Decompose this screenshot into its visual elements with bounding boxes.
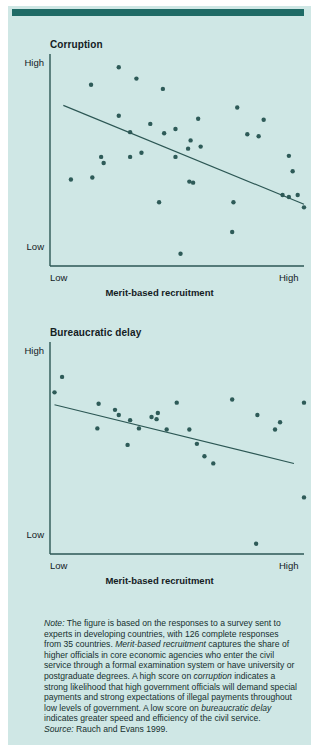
x-axis-high-label-corruption: High [279, 272, 299, 283]
data-point [117, 113, 121, 117]
data-point [290, 169, 294, 173]
data-point [139, 151, 143, 155]
data-point [95, 426, 99, 430]
x-axis-title-bureaucratic-delay: Merit-based recruitment [8, 575, 311, 586]
axes-bureaucratic-delay [50, 342, 304, 554]
data-point [273, 427, 277, 431]
source-text: Rauch and Evans 1999. [74, 724, 168, 734]
data-point [287, 154, 291, 158]
data-point [256, 134, 260, 138]
data-point [188, 138, 192, 142]
data-point [137, 426, 141, 430]
data-point [178, 252, 182, 256]
data-point [96, 401, 100, 405]
axes-corruption [50, 54, 304, 266]
data-point [125, 443, 129, 447]
data-point [175, 400, 179, 404]
note-paragraph: Note: The figure is based on the respons… [44, 618, 298, 724]
x-axis-low-label-corruption: Low [50, 272, 67, 283]
data-point [69, 177, 73, 181]
x-axis-title-corruption: Merit-based recruitment [8, 287, 311, 298]
note-body-4: indicates greater speed and efficiency o… [44, 713, 261, 723]
data-point [148, 122, 152, 126]
data-point [254, 542, 258, 546]
data-point [187, 179, 191, 183]
data-point [195, 442, 199, 446]
data-point [191, 180, 195, 184]
data-point [117, 413, 121, 417]
data-point [113, 408, 117, 412]
data-point [235, 105, 239, 109]
scatter-plot-corruption [48, 54, 308, 270]
data-point [296, 193, 300, 197]
data-point [302, 400, 306, 404]
data-point [231, 200, 235, 204]
data-point [198, 144, 202, 148]
data-point [154, 417, 158, 421]
data-point [164, 427, 168, 431]
source-label: Source: [44, 724, 74, 734]
note-term-corruption: corruption [194, 671, 232, 681]
figure-root: Corruption High Low Low High Merit-based… [8, 6, 311, 745]
data-point [52, 390, 56, 394]
note-term-bureaucratic-delay: bureaucratic delay [201, 703, 271, 713]
data-point [173, 127, 177, 131]
chart-panel-bureaucratic-delay: Bureaucratic delay High Low Low High Mer… [8, 324, 311, 594]
data-point [187, 427, 191, 431]
chart-panel-corruption: Corruption High Low Low High Merit-based… [8, 36, 311, 306]
data-point [162, 131, 166, 135]
y-axis-low-label-corruption: Low [8, 241, 44, 252]
data-point [161, 87, 165, 91]
chart-title-corruption: Corruption [50, 39, 103, 50]
x-axis-low-label-bureaucratic-delay: Low [50, 560, 67, 571]
top-rule [12, 9, 304, 16]
data-point [255, 413, 259, 417]
data-point [157, 200, 161, 204]
source-line: Source: Rauch and Evans 1999. [44, 724, 298, 735]
data-point [186, 146, 190, 150]
note-label: Note: [44, 618, 65, 628]
data-point [128, 418, 132, 422]
data-points-bureaucratic-delay [52, 375, 306, 546]
data-point [230, 397, 234, 401]
chart-title-bureaucratic-delay: Bureaucratic delay [50, 327, 141, 338]
data-point [278, 420, 282, 424]
data-point [101, 161, 105, 165]
note-term-merit-based-recruitment: Merit-based recruitment [115, 639, 206, 649]
y-axis-low-label-bureaucratic-delay: Low [8, 529, 44, 540]
data-point [128, 155, 132, 159]
data-point [99, 155, 103, 159]
data-point [90, 175, 94, 179]
trendline-corruption [63, 105, 304, 204]
y-axis-high-label-corruption: High [8, 57, 44, 68]
y-axis-high-label-bureaucratic-delay: High [8, 345, 44, 356]
x-axis-high-label-bureaucratic-delay: High [279, 560, 299, 571]
data-point [173, 155, 177, 159]
data-point [261, 118, 265, 122]
data-point [202, 454, 206, 458]
data-point [134, 76, 138, 80]
data-point [149, 415, 153, 419]
data-point [196, 117, 200, 121]
data-points-corruption [69, 65, 307, 256]
scatter-plot-bureaucratic-delay [48, 342, 308, 558]
data-point [302, 495, 306, 499]
data-point [89, 83, 93, 87]
data-point [230, 230, 234, 234]
data-point [117, 65, 121, 69]
figure-note: Note: The figure is based on the respons… [44, 618, 298, 735]
data-point [156, 411, 160, 415]
data-point [302, 205, 306, 209]
data-point [245, 132, 249, 136]
data-point [60, 375, 64, 379]
data-point [211, 461, 215, 465]
